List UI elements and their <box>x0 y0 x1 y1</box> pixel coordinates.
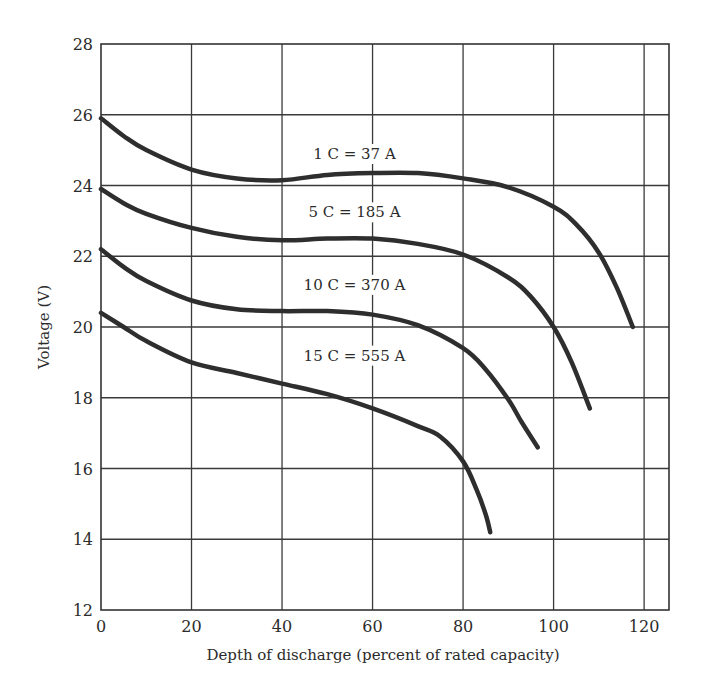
x-tick-label: 20 <box>181 617 201 636</box>
series-label: 1 C = 37 A <box>313 145 396 163</box>
x-axis-ticks: 020406080100120 <box>96 617 659 636</box>
y-tick-label: 14 <box>73 530 93 549</box>
discharge-voltage-chart: 1 C = 37 A5 C = 185 A10 C = 370 A15 C = … <box>0 0 710 700</box>
x-tick-label: 60 <box>362 617 382 636</box>
y-tick-label: 16 <box>73 460 93 479</box>
x-tick-label: 0 <box>96 617 106 636</box>
y-tick-label: 12 <box>73 601 93 620</box>
y-tick-label: 24 <box>73 177 93 196</box>
series-label: 5 C = 185 A <box>308 203 400 221</box>
x-axis-label: Depth of discharge (percent of rated cap… <box>206 646 559 664</box>
y-tick-label: 28 <box>73 35 93 54</box>
x-tick-label: 40 <box>272 617 292 636</box>
y-axis-label: Voltage (V) <box>35 285 53 370</box>
grid-lines <box>101 44 669 610</box>
series-label: 15 C = 555 A <box>304 347 406 365</box>
y-axis-ticks: 121416182022242628 <box>73 35 93 620</box>
y-tick-label: 22 <box>73 247 93 266</box>
y-tick-label: 26 <box>73 106 93 125</box>
discharge-curve-4 <box>101 313 490 532</box>
x-tick-label: 100 <box>538 617 569 636</box>
x-tick-label: 120 <box>629 617 660 636</box>
y-tick-label: 20 <box>73 318 93 337</box>
series-label: 10 C = 370 A <box>304 276 406 294</box>
y-tick-label: 18 <box>73 389 93 408</box>
x-tick-label: 80 <box>453 617 473 636</box>
